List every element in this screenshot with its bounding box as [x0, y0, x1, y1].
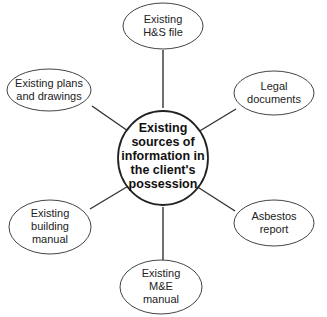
node-asbestos-report-line-1: Asbestos — [251, 210, 297, 222]
center-line-4: the client's — [131, 163, 196, 177]
node-hs-file-line-2: H&S file — [143, 26, 183, 38]
node-hs-file-line-1: Existing — [144, 13, 183, 25]
node-plans-drawings: Existing plans and drawings — [7, 69, 91, 111]
connector-plans-drawings — [92, 106, 128, 131]
connector-asbestos-report — [196, 186, 235, 211]
node-me-manual-line-2: M&E — [149, 280, 173, 292]
node-legal-documents-line-1: Legal — [261, 80, 288, 92]
node-plans-drawings-line-1: Existing plans — [15, 77, 83, 89]
node-asbestos-report-line-2: report — [260, 223, 289, 235]
node-building-manual-line-2: building — [31, 220, 69, 232]
node-hs-file: Existing H&S file — [123, 3, 203, 49]
node-me-manual: Existing M&E manual — [120, 260, 202, 314]
node-building-manual-line-1: Existing — [31, 207, 70, 219]
center-line-5: possession — [129, 177, 198, 191]
node-building-manual-line-3: manual — [32, 233, 68, 245]
node-asbestos-report: Asbestos report — [234, 200, 314, 246]
node-plans-drawings-line-2: and drawings — [16, 90, 82, 102]
node-me-manual-line-3: manual — [143, 293, 179, 305]
diagram-canvas: Existing H&S file Legal documents Asbest… — [0, 0, 327, 317]
connector-legal-documents — [198, 109, 236, 132]
node-me-manual-line-1: Existing — [142, 267, 181, 279]
mind-map-diagram: Existing H&S file Legal documents Asbest… — [0, 0, 327, 317]
node-legal-documents: Legal documents — [234, 71, 314, 115]
center-node: Existing sources of information in the c… — [118, 111, 208, 205]
node-building-manual: Existing building manual — [9, 200, 91, 254]
center-line-1: Existing — [139, 121, 188, 135]
center-line-3: information in — [121, 149, 204, 163]
center-line-2: sources of — [131, 135, 195, 149]
connector-building-manual — [90, 185, 130, 209]
node-legal-documents-line-2: documents — [247, 93, 301, 105]
